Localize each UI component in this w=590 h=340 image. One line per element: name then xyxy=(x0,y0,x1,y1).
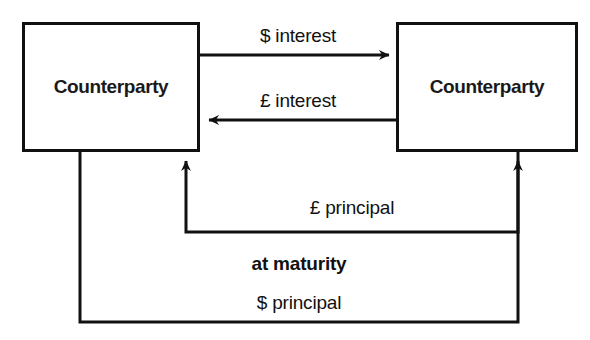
counterparty-right-label: Counterparty xyxy=(430,76,545,98)
flow-label-pound-principal: £ principal xyxy=(186,197,518,219)
counterparty-box-right: Counterparty xyxy=(396,22,578,152)
flow-label-dollar-interest: $ interest xyxy=(200,25,396,47)
connector-pound-principal xyxy=(186,152,518,232)
counterparty-left-label: Counterparty xyxy=(54,76,169,98)
annotation-at-maturity: at maturity xyxy=(80,253,518,275)
currency-swap-diagram: Counterparty Counterparty $ interest £ i… xyxy=(0,0,590,340)
flow-label-dollar-principal: $ principal xyxy=(80,292,518,314)
counterparty-box-left: Counterparty xyxy=(22,22,200,152)
flow-label-pound-interest: £ interest xyxy=(200,90,396,112)
